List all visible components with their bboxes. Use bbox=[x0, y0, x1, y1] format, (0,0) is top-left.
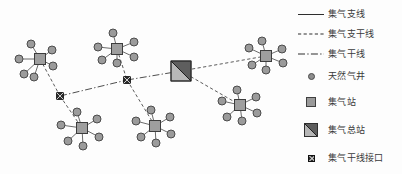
legend-label-trunk-interface: 集气干线接口 bbox=[328, 154, 384, 163]
gas-well-node[interactable] bbox=[130, 38, 138, 46]
gas-well-node[interactable] bbox=[113, 59, 121, 67]
figure-root: 集气支线 集气支干线 集气干线 天然气井 bbox=[0, 0, 402, 174]
gas-well-node[interactable] bbox=[233, 86, 241, 94]
trunk-interface-node[interactable] bbox=[124, 77, 131, 84]
gas-well-node[interactable] bbox=[252, 93, 260, 101]
legend-item-branch-line: 集气支线 bbox=[294, 4, 402, 24]
gas-well-node[interactable] bbox=[152, 139, 160, 147]
gas-well-node[interactable] bbox=[167, 130, 175, 138]
gas-well-node[interactable] bbox=[95, 133, 103, 141]
legend-item-branch-trunk-line: 集气支干线 bbox=[294, 24, 402, 44]
gas-well-node[interactable] bbox=[20, 70, 28, 78]
gas-well-node[interactable] bbox=[109, 29, 117, 37]
gathering-station-node[interactable] bbox=[150, 121, 161, 132]
gas-well-node[interactable] bbox=[64, 137, 72, 145]
gas-well-node[interactable] bbox=[262, 66, 270, 74]
legend-label-trunk-line: 集气干线 bbox=[328, 50, 365, 59]
gas-well-node[interactable] bbox=[94, 43, 102, 51]
legend-label-gathering-station: 集气站 bbox=[328, 98, 356, 107]
hatched-square-marker-icon bbox=[294, 148, 328, 168]
legend-label-gas-well: 天然气井 bbox=[328, 72, 365, 81]
gas-well-node[interactable] bbox=[49, 62, 57, 70]
network-diagram-panel bbox=[0, 0, 290, 174]
legend-label-main-gathering-station: 集气总站 bbox=[328, 126, 365, 135]
gas-well-node[interactable] bbox=[48, 46, 56, 54]
gas-well-node[interactable] bbox=[248, 61, 256, 69]
dash-dot-line-icon bbox=[294, 44, 328, 64]
main-gathering-station-node[interactable] bbox=[171, 61, 191, 81]
gas-well-node[interactable] bbox=[30, 73, 38, 81]
legend-item-trunk-line: 集气干线 bbox=[294, 44, 402, 64]
gas-well-node[interactable] bbox=[238, 117, 246, 125]
gas-well-node[interactable] bbox=[57, 121, 65, 129]
gas-well-node[interactable] bbox=[137, 133, 145, 141]
legend-item-gathering-station: 集气站 bbox=[294, 88, 402, 116]
legend-item-main-gathering-station: 集气总站 bbox=[294, 116, 402, 144]
gas-well-node[interactable] bbox=[258, 37, 266, 45]
gathering-station-node[interactable] bbox=[112, 44, 123, 55]
split-square-marker-icon bbox=[294, 120, 328, 140]
dashed-line-icon bbox=[294, 24, 328, 44]
gas-well-node[interactable] bbox=[98, 56, 106, 64]
legend-label-branch-line: 集气支线 bbox=[328, 10, 365, 19]
legend-item-trunk-interface: 集气干线接口 bbox=[294, 144, 402, 172]
gas-well-node[interactable] bbox=[132, 117, 140, 125]
gathering-station-node[interactable] bbox=[77, 123, 88, 134]
gas-well-node[interactable] bbox=[147, 106, 155, 114]
legend-item-gas-well: 天然气井 bbox=[294, 64, 402, 88]
gas-well-node[interactable] bbox=[218, 97, 226, 105]
gathering-station-node[interactable] bbox=[35, 54, 46, 65]
gas-well-node[interactable] bbox=[27, 40, 35, 48]
gathering-station-node[interactable] bbox=[261, 51, 272, 62]
gas-well-node[interactable] bbox=[279, 59, 287, 67]
gas-well-node[interactable] bbox=[253, 109, 261, 117]
gathering-station-node[interactable] bbox=[235, 100, 246, 111]
gas-well-node[interactable] bbox=[15, 55, 23, 63]
legend-panel: 集气支线 集气支干线 集气干线 天然气井 bbox=[290, 0, 402, 174]
gas-well-node[interactable] bbox=[73, 108, 81, 116]
gas-well-node[interactable] bbox=[223, 113, 231, 121]
gas-well-node[interactable] bbox=[93, 115, 101, 123]
gas-well-node[interactable] bbox=[278, 45, 286, 53]
branch-trunk-line bbox=[127, 80, 155, 126]
square-marker-icon bbox=[294, 92, 328, 112]
trunk-interface-node[interactable] bbox=[57, 93, 64, 100]
gas-well-node[interactable] bbox=[79, 142, 87, 150]
gas-well-node[interactable] bbox=[130, 53, 138, 61]
gas-well-node[interactable] bbox=[166, 113, 174, 121]
trunk-line bbox=[60, 80, 127, 96]
network-diagram-svg bbox=[0, 0, 290, 174]
circle-marker-icon bbox=[294, 66, 328, 86]
legend-label-branch-trunk-line: 集气支干线 bbox=[328, 30, 375, 39]
solid-line-icon bbox=[294, 4, 328, 24]
gas-well-node[interactable] bbox=[245, 44, 253, 52]
